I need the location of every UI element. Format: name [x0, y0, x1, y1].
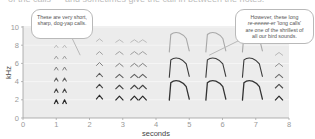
x-tick-label: 4: [154, 120, 158, 129]
y-tick-label: 0: [15, 114, 19, 123]
x-axis-label: seconds: [142, 129, 170, 138]
callout-long-calls: However, these long re-eeeee-er 'long ca…: [235, 9, 314, 44]
callout-long-line2: 'long calls': [276, 20, 302, 26]
x-tick-label: 6: [220, 120, 224, 129]
x-tick-label: 5: [187, 120, 191, 129]
y-axis-label: kHz: [4, 66, 13, 79]
callout-long-line4: all our bird sounds.: [239, 33, 310, 39]
callout-short-calls-text: These are very short, sharp, dog-yap cal…: [37, 14, 87, 26]
y-tick-label: 4: [15, 77, 19, 86]
x-tick-label: 3: [121, 120, 125, 129]
callout-short-calls: These are very short, sharp, dog-yap cal…: [31, 9, 93, 39]
x-tick-label: 1: [54, 120, 58, 129]
callout-long-italic: re-eeeee-er: [248, 20, 276, 26]
y-tick-label: 2: [15, 95, 19, 104]
x-tick-label: 8: [287, 120, 291, 129]
y-tick-label: 6: [15, 59, 19, 68]
y-tick-label: 10: [11, 23, 19, 32]
x-tick-label: 2: [87, 120, 91, 129]
x-tick-label: 0: [21, 120, 25, 129]
y-tick-label: 8: [15, 41, 19, 50]
callout-long-line3: are one of the shrillest of: [239, 27, 310, 33]
x-tick-label: 7: [254, 120, 258, 129]
